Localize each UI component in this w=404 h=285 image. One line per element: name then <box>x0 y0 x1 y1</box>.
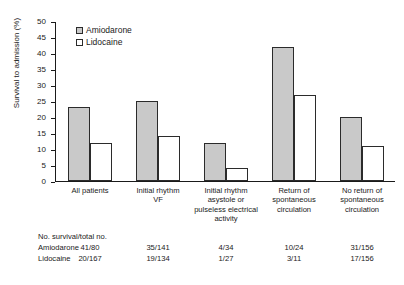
y-axis-tick-label: 10 <box>37 145 46 154</box>
legend-item-amiodarone: Amiodarone <box>76 24 132 36</box>
bar-group <box>260 22 328 181</box>
bar-amiodarone <box>68 107 90 181</box>
y-axis-tick: 35 <box>51 70 55 71</box>
y-axis-tick: 50 <box>51 22 55 23</box>
y-axis-tick: 5 <box>51 166 55 167</box>
y-axis-tick-label: 20 <box>37 113 46 122</box>
bar-lidocaine <box>158 136 180 181</box>
bar-group <box>124 22 192 181</box>
table-row: Lidocaine 20/167 19/134 1/27 3/11 17/156 <box>0 254 404 265</box>
y-axis-tick: 25 <box>51 102 55 103</box>
bar-group <box>192 22 260 181</box>
table-cell: 35/141 <box>124 243 192 254</box>
legend-label-amiodarone: Amiodarone <box>86 24 132 36</box>
table-cell: 17/156 <box>328 254 396 265</box>
legend-swatch-icon-lidocaine <box>76 39 83 46</box>
y-axis-tick-label: 0 <box>42 177 46 186</box>
y-axis-tick: 20 <box>51 118 55 119</box>
chart-legend: Amiodarone Lidocaine <box>76 24 132 48</box>
table-cell: 41/80 <box>56 243 124 254</box>
table-cell: 10/24 <box>260 243 328 254</box>
y-axis-tick-label: 15 <box>37 129 46 138</box>
bar-lidocaine <box>362 146 384 181</box>
y-axis-title: Survival to admission (%) <box>12 0 22 128</box>
bar-lidocaine <box>90 143 112 181</box>
bar-amiodarone <box>272 47 294 181</box>
bar-lidocaine <box>226 168 248 181</box>
table-cell: 1/27 <box>192 254 260 265</box>
table-cell: 4/34 <box>192 243 260 254</box>
legend-item-lidocaine: Lidocaine <box>76 36 132 48</box>
y-axis-tick: 30 <box>51 86 55 87</box>
y-axis-tick: 40 <box>51 54 55 55</box>
x-axis-line <box>55 181 395 182</box>
bar-lidocaine <box>294 95 316 181</box>
legend-label-lidocaine: Lidocaine <box>86 36 122 48</box>
bar-group <box>328 22 396 181</box>
y-axis-tick-label: 45 <box>37 33 46 42</box>
y-axis-tick: 10 <box>51 150 55 151</box>
legend-swatch-icon-amiodarone <box>76 27 83 34</box>
y-axis-tick-label: 50 <box>37 17 46 26</box>
y-axis-tick: 0 <box>51 182 55 183</box>
y-axis-tick-label: 25 <box>37 97 46 106</box>
table-caption: No. survival/total no. <box>38 232 107 243</box>
x-axis-category-label: No return ofspontaneouscirculation <box>316 186 404 214</box>
x-axis-category-labels: All patientsInitial rhythmVFInitial rhyt… <box>56 186 395 230</box>
bar-amiodarone <box>136 101 158 181</box>
y-axis-tick-label: 35 <box>37 65 46 74</box>
survival-counts-table: No. survival/total no. Amiodarone 41/80 … <box>0 232 404 276</box>
table-row: Amiodarone 41/80 35/141 4/34 10/24 31/15… <box>0 243 404 254</box>
y-axis-tick-label: 40 <box>37 49 46 58</box>
table-cell: 3/11 <box>260 254 328 265</box>
y-axis-tick-label: 30 <box>37 81 46 90</box>
y-axis-tick: 45 <box>51 38 55 39</box>
survival-to-admission-figure: Survival to admission (%) 05101520253035… <box>0 0 404 285</box>
bar-amiodarone <box>204 143 226 181</box>
y-axis-tick-label: 5 <box>42 161 46 170</box>
table-cell: 20/167 <box>56 254 124 265</box>
y-axis-tick: 15 <box>51 134 55 135</box>
bar-chart: Survival to admission (%) 05101520253035… <box>0 0 404 190</box>
table-cell: 31/156 <box>328 243 396 254</box>
bar-amiodarone <box>340 117 362 181</box>
table-cell: 19/134 <box>124 254 192 265</box>
